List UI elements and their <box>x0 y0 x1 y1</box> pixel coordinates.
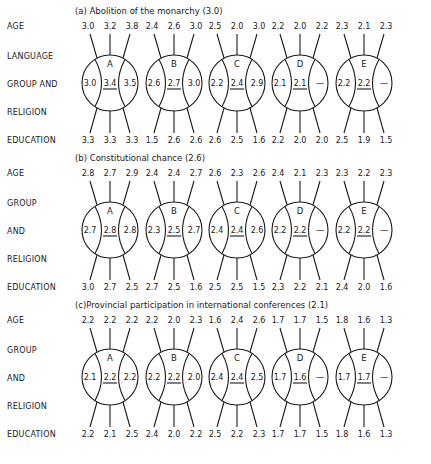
age-spoke <box>90 328 97 352</box>
age-value: 2.4 <box>146 22 159 31</box>
age-value: 2.2 <box>146 316 159 325</box>
education-spoke <box>187 402 194 427</box>
education-value: 2.5 <box>231 136 244 145</box>
row-label: GROUP AND <box>7 80 58 89</box>
age-value: 2.3 <box>336 169 349 178</box>
left-value: 2.2 <box>274 226 287 235</box>
education-value: 1.6 <box>190 283 203 292</box>
group-d: 1.71.71.51.71.71.5D1.71.6— <box>272 316 329 439</box>
education-spoke <box>377 255 384 280</box>
age-spoke <box>344 328 351 352</box>
education-value: 2.7 <box>146 283 159 292</box>
right-value: — <box>316 79 324 88</box>
age-value: 2.4 <box>272 169 285 178</box>
age-value: 2.1 <box>294 169 307 178</box>
age-value: 2.2 <box>104 316 117 325</box>
education-spoke <box>123 108 130 133</box>
group-e: 2.32.12.32.51.91.5E2.22.2— <box>336 22 393 145</box>
group-letter: C <box>234 206 240 216</box>
group-letter: D <box>297 353 304 363</box>
group-letter: E <box>361 59 366 69</box>
age-value: 2.0 <box>231 22 244 31</box>
center-value: 1.7 <box>358 373 371 382</box>
age-spoke <box>280 328 287 352</box>
group-a: 3.03.23.83.33.33.3A3.03.43.5 <box>82 22 139 145</box>
age-value: 1.6 <box>358 316 371 325</box>
education-value: 2.2 <box>272 136 285 145</box>
education-spoke <box>90 108 97 133</box>
group-c: 1.62.42.62.52.22.3C2.42.42.5 <box>209 316 266 439</box>
left-value: 2.4 <box>211 226 224 235</box>
education-value: 1.6 <box>358 430 371 439</box>
age-spoke <box>250 34 257 58</box>
education-value: 2.5 <box>336 136 349 145</box>
group-c: 2.52.03.02.62.51.6C2.22.42.9 <box>209 22 266 145</box>
center-value: 2.4 <box>231 373 244 382</box>
education-value: 1.5 <box>146 136 159 145</box>
age-value: 2.9 <box>126 169 139 178</box>
age-value: 2.6 <box>209 169 222 178</box>
education-spoke <box>123 255 130 280</box>
age-spoke <box>187 34 194 58</box>
education-spoke <box>217 402 224 427</box>
age-value: 3.0 <box>190 22 203 31</box>
education-value: 2.5 <box>231 283 244 292</box>
age-spoke <box>377 328 384 352</box>
right-arc <box>309 207 316 254</box>
education-value: 2.4 <box>336 283 349 292</box>
row-label: GROUP <box>7 346 37 355</box>
education-spoke <box>344 402 351 427</box>
center-value: 1.6 <box>294 373 307 382</box>
group-letter: E <box>361 206 366 216</box>
education-spoke <box>154 108 161 133</box>
age-spoke <box>313 328 320 352</box>
education-spoke <box>313 108 320 133</box>
education-spoke <box>217 108 224 133</box>
education-value: 1.7 <box>272 430 285 439</box>
education-value: 2.3 <box>272 283 285 292</box>
group-d: 2.22.02.22.22.02.0D2.12.1— <box>272 22 329 145</box>
education-spoke <box>344 255 351 280</box>
age-spoke <box>90 34 97 58</box>
age-spoke <box>187 181 194 205</box>
right-value: — <box>380 79 388 88</box>
education-spoke <box>123 402 130 427</box>
education-spoke <box>90 402 97 427</box>
education-value: 2.0 <box>294 136 307 145</box>
age-value: 2.5 <box>209 22 222 31</box>
education-spoke <box>280 402 287 427</box>
right-value: 2.6 <box>251 226 264 235</box>
education-value: 1.7 <box>294 430 307 439</box>
age-spoke <box>90 181 97 205</box>
age-value: 2.0 <box>168 316 181 325</box>
education-value: 3.3 <box>82 136 95 145</box>
right-value: 3.0 <box>188 79 201 88</box>
education-value: 2.2 <box>190 430 203 439</box>
right-value: — <box>316 373 324 382</box>
education-value: 2.6 <box>209 136 222 145</box>
education-value: 1.8 <box>336 430 349 439</box>
row-label: RELIGION <box>7 108 47 117</box>
left-value: 2.7 <box>84 226 97 235</box>
education-spoke <box>187 255 194 280</box>
education-value: 2.6 <box>190 136 203 145</box>
row-label: AND <box>7 227 25 236</box>
education-value: 1.6 <box>380 283 393 292</box>
left-value: 1.7 <box>274 373 287 382</box>
age-value: 1.7 <box>294 316 307 325</box>
age-value: 2.1 <box>358 22 371 31</box>
education-value: 2.0 <box>168 430 181 439</box>
education-value: 2.5 <box>209 430 222 439</box>
education-value: 2.5 <box>168 283 181 292</box>
age-spoke <box>313 181 320 205</box>
group-letter: A <box>107 206 113 216</box>
age-value: 3.2 <box>104 22 117 31</box>
education-value: 2.1 <box>104 430 117 439</box>
education-spoke <box>313 402 320 427</box>
education-spoke <box>377 108 384 133</box>
center-value: 2.4 <box>231 79 244 88</box>
panel-title: (c)Provincial participation in internati… <box>75 300 328 310</box>
panel-title: (b) Constitutional chance (2.6) <box>75 153 205 163</box>
age-value: 2.7 <box>190 169 203 178</box>
panel-c: (c)Provincial participation in internati… <box>7 300 392 439</box>
